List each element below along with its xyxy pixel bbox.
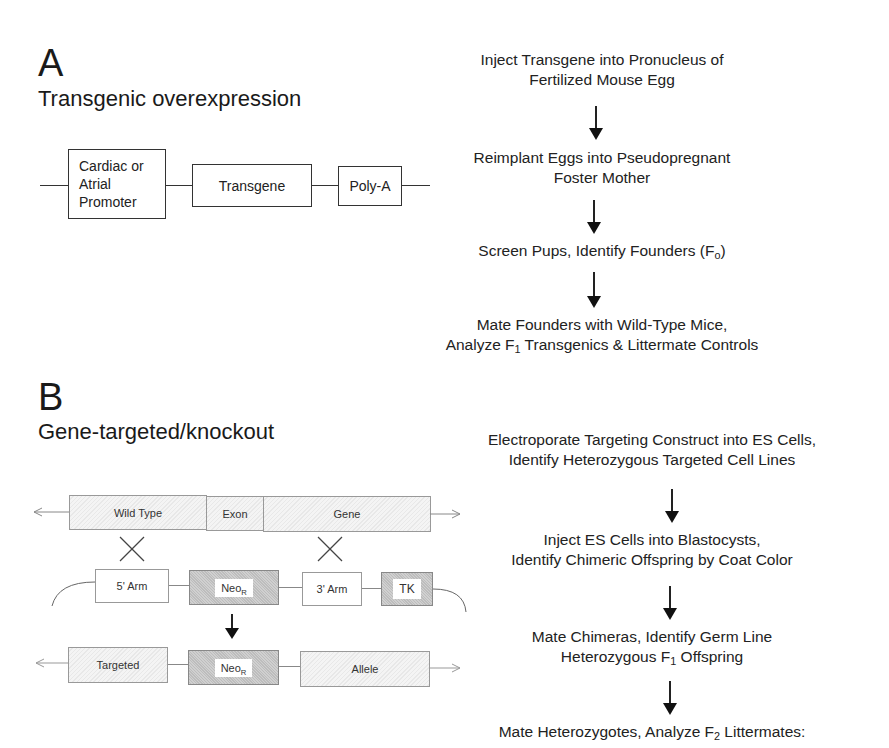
vector-curve-right [432,585,472,615]
vector-curve-left [50,578,96,608]
arrow-down-icon [587,200,601,234]
crossover-x-icon [118,535,146,563]
polya-box: Poly-A [338,166,402,206]
step-a3: Screen Pups, Identify Founders (Fo) [436,241,768,261]
arrow-right-icon [430,507,462,521]
step-b3: Mate Chimeras, Identify Germ Line Hetero… [436,627,868,667]
crossover-x-icon [316,535,344,563]
construct-line-1 [166,185,192,186]
arrow-down-icon [663,681,677,715]
arrow-down-icon [587,272,601,308]
targeted-box: Targeted [68,647,168,683]
allele-box: Allele [300,651,430,687]
arrow-left-icon [32,505,72,519]
construct-link [362,588,382,589]
arrow-down-icon [589,106,603,140]
wild-type-box: Wild Type [69,495,207,530]
transgene-box: Transgene [192,164,312,207]
step-b2: Inject ES Cells into Blastocysts, Identi… [436,530,868,570]
five-arm-box: 5' Arm [95,569,169,603]
step-a1: Inject Transgene into Pronucleus of Fert… [436,50,768,90]
neo-box-targeted: NeoR [188,650,279,685]
panel-a-title: Transgenic overexpression [38,87,301,111]
allele-link [168,664,188,665]
step-b1: Electroporate Targeting Construct into E… [436,430,868,470]
neo-box: NeoR [189,570,279,605]
construct-line-right [402,185,430,186]
tk-box: TK [381,572,433,606]
exon-box: Exon [206,496,264,531]
panel-b-letter: B [38,378,63,416]
construct-link [279,587,302,588]
construct-link [169,585,189,586]
gene-box: Gene [263,496,431,532]
arrow-down-icon [663,586,677,620]
promoter-box: Cardiac or Atrial Promoter [68,149,166,219]
step-a2: Reimplant Eggs into Pseudopregnant Foste… [436,148,768,188]
three-arm-box: 3' Arm [302,572,362,606]
step-a4: Mate Founders with Wild-Type Mice, Analy… [396,315,808,355]
arrow-down-icon [225,614,239,640]
panel-b-title: Gene-targeted/knockout [38,420,274,444]
arrow-down-icon [665,489,679,523]
panel-a-letter: A [38,44,63,82]
construct-line-2 [312,185,338,186]
construct-line-left [40,185,68,186]
allele-link [279,666,301,667]
step-b4: Mate Heterozygotes, Analyze F2 Littermat… [436,722,868,742]
